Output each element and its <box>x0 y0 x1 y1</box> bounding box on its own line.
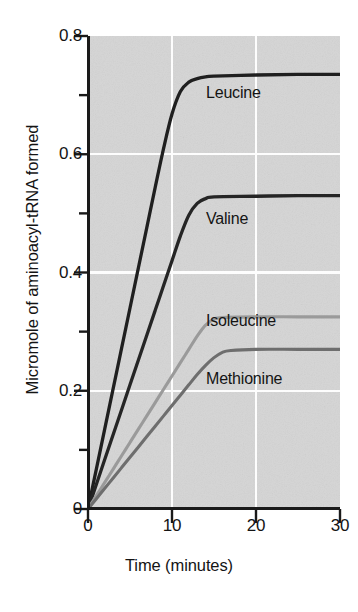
x-axis-tick-labels: 0102030 <box>0 516 358 546</box>
x-tick-label: 10 <box>142 516 202 536</box>
series-label-leucine: Leucine <box>206 84 261 102</box>
y-tick-label: 0.6 <box>34 144 82 164</box>
y-tick-label: 0.2 <box>34 381 82 401</box>
y-tick-label: 0.8 <box>34 26 82 46</box>
x-tick-label: 0 <box>58 516 118 536</box>
series-label-isoleucine: Isoleucine <box>206 312 276 330</box>
x-tick-label: 20 <box>226 516 286 536</box>
x-tick-label: 30 <box>310 516 358 536</box>
series-label-methionine: Methionine <box>206 370 282 388</box>
chart-figure: Micromole of aminoacyl-tRNA formed 00.20… <box>0 0 358 612</box>
series-label-valine: Valine <box>206 210 248 228</box>
y-tick-label: 0.4 <box>34 263 82 283</box>
x-axis-title: Time (minutes) <box>0 556 358 575</box>
